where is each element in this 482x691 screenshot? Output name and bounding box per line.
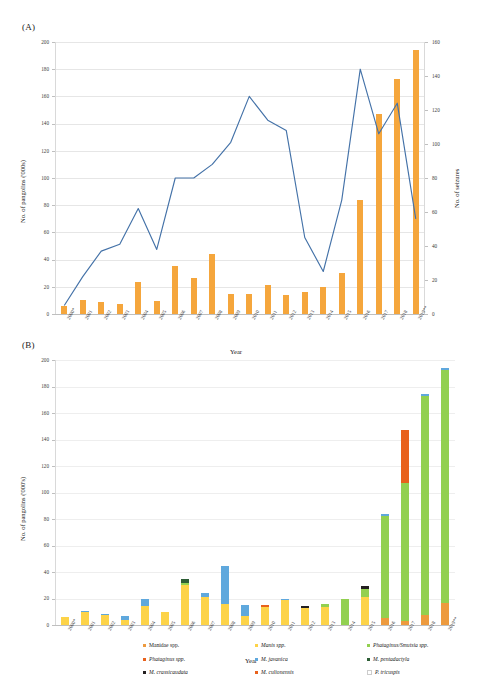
legend-swatch [143, 671, 146, 674]
y2-axis-tick [425, 280, 428, 281]
y-axis-title: No. of pangolins ('000s) [19, 160, 26, 223]
y-axis-tick-label: 0 [27, 311, 49, 317]
gridline [55, 519, 455, 520]
y-axis-tick-label: 20 [27, 595, 49, 601]
y-axis-tick [52, 287, 55, 288]
stacked-bar [161, 360, 169, 625]
stacked-bar [181, 360, 189, 625]
legend-label: Manis spp. [261, 643, 286, 649]
y2-axis-tick-label: 80 [432, 175, 454, 181]
y2-axis-tick [425, 246, 428, 247]
stack-segment [181, 585, 189, 625]
y-axis-tick-label: 140 [27, 436, 49, 442]
stack-segment [181, 583, 189, 586]
y-axis-tick [52, 69, 55, 70]
legend-label: M. crassicaudata [149, 670, 188, 676]
y2-axis-tick-label: 160 [432, 39, 454, 45]
stacked-bar [361, 360, 369, 625]
gridline [55, 360, 455, 361]
stack-segment [361, 597, 369, 625]
y-axis-tick [52, 151, 55, 152]
legend-item: Manidae spp. [143, 643, 179, 649]
y-axis-tick [52, 519, 55, 520]
y-axis-tick [52, 440, 55, 441]
gridline [55, 572, 455, 573]
y-axis-tick [52, 599, 55, 600]
y-axis-tick-label: 200 [27, 357, 49, 363]
gridline [55, 493, 455, 494]
y-axis-tick-label: 20 [27, 284, 49, 290]
gridline [55, 440, 455, 441]
stack-segment [201, 593, 209, 597]
y-axis-tick-label: 120 [27, 463, 49, 469]
stack-segment [121, 616, 129, 620]
legend-swatch [367, 644, 370, 647]
y-axis-tick-label: 0 [27, 622, 49, 628]
y-axis-tick [52, 572, 55, 573]
y-axis-tick-label: 60 [27, 542, 49, 548]
stack-segment [441, 370, 449, 603]
y-axis-tick-label: 40 [27, 256, 49, 262]
y2-axis-title: No. of seizures [453, 169, 460, 208]
legend-item: Phataginus/Smutsia spp. [367, 643, 428, 649]
stacked-bar [241, 360, 249, 625]
stack-segment [341, 599, 349, 625]
panel-b-chart: 2000*20012002200320042005200620072008200… [55, 360, 455, 625]
stacked-bar [201, 360, 209, 625]
stacked-bar [321, 360, 329, 625]
stacked-bar [81, 360, 89, 625]
stack-segment [201, 597, 209, 625]
stack-segment [301, 606, 309, 607]
stack-segment [101, 614, 109, 615]
stack-segment [401, 621, 409, 625]
stack-segment [81, 612, 89, 625]
stack-segment [381, 516, 389, 618]
y-axis-tick [52, 466, 55, 467]
y-axis-tick [52, 625, 55, 626]
figure-root: (A) 2000*2001200220032004200520062007200… [0, 0, 482, 691]
stacked-bar [401, 360, 409, 625]
y-axis-tick-label: 180 [27, 383, 49, 389]
y2-axis-tick [425, 178, 428, 179]
y2-axis-tick-label: 0 [432, 311, 454, 317]
y2-axis-tick-label: 20 [432, 277, 454, 283]
legend-item: M. javanica [255, 657, 288, 663]
y2-axis-tick [425, 110, 428, 111]
y-axis-tick-label: 80 [27, 516, 49, 522]
y-axis-tick-label: 80 [27, 202, 49, 208]
gridline [55, 546, 455, 547]
y2-axis-tick [425, 42, 428, 43]
stacked-bar [101, 360, 109, 625]
gridline [55, 413, 455, 414]
stacked-bar [61, 360, 69, 625]
legend-label: Manidae spp. [149, 643, 179, 649]
stack-segment [421, 615, 429, 625]
stack-segment [381, 514, 389, 516]
legend-label: M. pentadactyla [373, 657, 409, 663]
y-axis-tick [52, 314, 55, 315]
y-axis-tick [52, 387, 55, 388]
stack-segment [321, 607, 329, 625]
y-axis-tick-label: 120 [27, 148, 49, 154]
legend-item: Phataginus spp. [143, 657, 185, 663]
y-axis-tick [52, 124, 55, 125]
legend-item: P. tricuspis [367, 670, 400, 676]
y-axis-tick [52, 178, 55, 179]
y-axis-tick [52, 232, 55, 233]
stack-segment [241, 605, 249, 616]
y-axis-line [55, 360, 56, 625]
legend-swatch [255, 671, 258, 674]
y2-axis-tick-label: 140 [432, 73, 454, 79]
y2-axis-tick-label: 60 [432, 209, 454, 215]
stack-segment [361, 586, 369, 589]
stack-segment [181, 579, 189, 583]
y-axis-tick-label: 200 [27, 39, 49, 45]
gridline [55, 599, 455, 600]
stack-segment [401, 430, 409, 483]
legend-swatch [255, 644, 258, 647]
legend-label: P. tricuspis [375, 670, 400, 676]
y2-axis-tick [425, 144, 428, 145]
stacked-bar [421, 360, 429, 625]
stack-segment [141, 606, 149, 625]
stack-segment [301, 608, 309, 625]
